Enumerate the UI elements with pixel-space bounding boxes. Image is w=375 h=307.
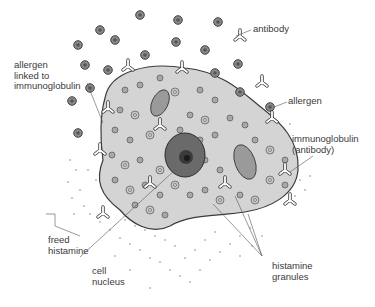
label-allergen: allergen (288, 96, 322, 107)
label-cell-nucleus: cell nucleus (92, 266, 125, 287)
label-immunoglobulin: immunoglobulin (antibody) (292, 134, 359, 155)
label-freed-histamine: freed histamine (48, 235, 89, 256)
label-antibody: antibody (253, 24, 289, 35)
cell-nucleus (165, 133, 205, 177)
label-allergen-linked: allergen linked to immunoglobulin (14, 60, 81, 92)
label-histamine-granules: histamine granules (272, 261, 313, 282)
